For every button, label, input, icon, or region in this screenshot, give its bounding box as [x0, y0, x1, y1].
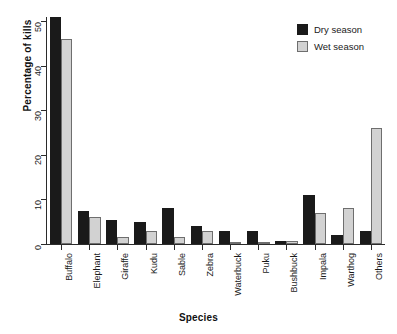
bar-puku-wet — [258, 242, 269, 244]
x-tick-label-others: Others — [375, 253, 384, 280]
legend-label-wet-season: Wet season — [314, 41, 364, 52]
x-tick-label-puku: Puku — [262, 253, 271, 274]
bar-zebra-wet — [202, 231, 213, 244]
bar-bushbuck-wet — [286, 241, 297, 244]
y-axis-title: Percentage of kills — [22, 0, 33, 151]
y-tick-label-20: 20 — [34, 155, 43, 165]
bar-elephant-dry — [78, 211, 89, 244]
bar-waterbuck-dry — [219, 231, 230, 244]
x-tick-bushbuck — [286, 245, 287, 250]
legend-item-dry-season: Dry season — [297, 21, 393, 38]
bar-impala-dry — [303, 195, 314, 244]
bar-chart: Percentage of kills 01020304050 BuffaloE… — [0, 0, 397, 334]
x-tick-kudu — [146, 245, 147, 250]
x-tick-sable — [174, 245, 175, 250]
legend-item-wet-season: Wet season — [297, 38, 393, 55]
x-axis-title: Species — [0, 312, 397, 323]
x-tick-impala — [315, 245, 316, 250]
bar-giraffe-dry — [106, 220, 117, 244]
x-tick-others — [371, 245, 372, 250]
x-tick-label-zebra: Zebra — [206, 253, 215, 277]
y-tick-20: 20 — [41, 155, 46, 156]
bar-buffalo-wet — [61, 39, 72, 244]
x-tick-buffalo — [61, 245, 62, 250]
bar-warthog-dry — [331, 235, 342, 244]
x-tick-label-sable: Sable — [178, 253, 187, 276]
bar-waterbuck-wet — [230, 242, 241, 244]
y-tick-label-40: 40 — [34, 66, 43, 76]
y-tick-label-30: 30 — [34, 111, 43, 121]
legend-swatch-wet-season — [297, 41, 308, 52]
bar-others-dry — [360, 231, 371, 244]
bar-kudu-dry — [134, 222, 145, 244]
y-tick-30: 30 — [41, 110, 46, 111]
x-tick-label-bushbuck: Bushbuck — [290, 253, 299, 293]
bar-buffalo-dry — [50, 17, 61, 244]
legend-label-dry-season: Dry season — [314, 24, 362, 35]
bar-warthog-wet — [343, 208, 354, 244]
bar-impala-wet — [315, 213, 326, 244]
y-tick-10: 10 — [41, 199, 46, 200]
bar-sable-dry — [162, 208, 173, 244]
bar-giraffe-wet — [117, 237, 128, 244]
y-tick-label-10: 10 — [34, 200, 43, 210]
x-tick-puku — [258, 245, 259, 250]
x-tick-label-warthog: Warthog — [347, 253, 356, 287]
x-tick-label-giraffe: Giraffe — [121, 253, 130, 280]
y-tick-label-50: 50 — [34, 22, 43, 32]
y-tick-label-0: 0 — [34, 245, 43, 250]
y-tick-40: 40 — [41, 66, 46, 67]
x-tick-label-impala: Impala — [319, 253, 328, 280]
legend-swatch-dry-season — [297, 24, 308, 35]
bar-elephant-wet — [89, 217, 100, 244]
bar-others-wet — [371, 128, 382, 244]
y-tick-50: 50 — [41, 21, 46, 22]
x-tick-zebra — [202, 245, 203, 250]
x-tick-elephant — [89, 245, 90, 250]
x-tick-label-waterbuck: Waterbuck — [234, 253, 243, 296]
bar-kudu-wet — [146, 231, 157, 244]
x-tick-giraffe — [117, 245, 118, 250]
x-tick-label-kudu: Kudu — [150, 253, 159, 274]
x-tick-label-elephant: Elephant — [93, 253, 102, 289]
x-tick-waterbuck — [230, 245, 231, 250]
x-tick-warthog — [343, 245, 344, 250]
bar-zebra-dry — [191, 226, 202, 244]
y-tick-0: 0 — [41, 244, 46, 245]
bar-bushbuck-dry — [275, 241, 286, 244]
chart-legend: Dry season Wet season — [297, 21, 393, 55]
x-tick-label-buffalo: Buffalo — [65, 253, 74, 281]
bar-sable-wet — [174, 237, 185, 244]
bar-puku-dry — [247, 231, 258, 244]
